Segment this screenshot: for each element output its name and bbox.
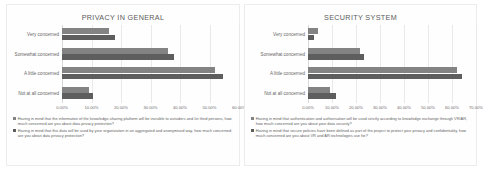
legend-right: Having in mind that authentication and a…: [245, 113, 476, 165]
x-tick-label: 10.00%: [325, 105, 339, 110]
bar-group: [62, 65, 239, 82]
bar-row: Somewhat concerned: [245, 46, 476, 63]
legend-label: Having in mind that the information of t…: [18, 116, 234, 126]
x-tick-label: 20.00%: [349, 105, 363, 110]
category-label: Not at all concerned: [245, 91, 308, 96]
x-tick-label: 40.00%: [397, 105, 411, 110]
category-label: Very concerned: [7, 32, 62, 37]
plot-area-left: Very concernedSomewhat concernedA little…: [7, 25, 239, 103]
bar-segment: [308, 35, 314, 41]
category-label: Somewhat concerned: [245, 52, 308, 57]
bar-rows-right: Very concernedSomewhat concernedA little…: [245, 25, 476, 103]
legend-label: Having in mind that secure policies have…: [256, 128, 471, 138]
bar-group: [62, 85, 239, 102]
bar-row: Somewhat concerned: [7, 46, 239, 63]
bar-segment: [62, 74, 223, 80]
bar-segment: [308, 48, 360, 54]
x-tick-label: 0.00%: [302, 105, 314, 110]
chart-panel-privacy-in-general: PRIVACY IN GENERAL Very concernedSomewha…: [6, 4, 240, 166]
legend-label: Having in mind that this data will be us…: [18, 128, 234, 138]
x-tick-label: 30.00%: [373, 105, 387, 110]
bar-segment: [62, 54, 174, 60]
bar-rows-left: Very concernedSomewhat concernedA little…: [7, 25, 239, 103]
chart-panel-security-system: SECURITY SYSTEM Very concernedSomewhat c…: [244, 4, 477, 166]
x-tick-label: 50.00%: [421, 105, 435, 110]
chart-title-left: PRIVACY IN GENERAL: [7, 5, 239, 24]
gridline: [239, 25, 240, 103]
bar-group: [308, 26, 476, 43]
legend-label: Having in mind that authentication and a…: [256, 116, 471, 126]
bar-segment: [308, 54, 364, 60]
bar-segment: [62, 48, 168, 54]
charts-page: PRIVACY IN GENERAL Very concernedSomewha…: [0, 0, 483, 172]
x-tick-label: 40.00%: [173, 105, 187, 110]
bar-group: [62, 26, 239, 43]
legend-item: Having in mind that secure policies have…: [251, 128, 471, 138]
x-tick-label: 0.00%: [56, 105, 68, 110]
x-tick-label: 10.00%: [85, 105, 99, 110]
bar-segment: [308, 87, 330, 93]
x-axis-left: 0.00%10.00%20.00%30.00%40.00%50.00%60.00…: [62, 104, 239, 113]
legend-swatch-icon: [251, 129, 254, 132]
bar-segment: [308, 93, 336, 99]
bar-group: [308, 65, 476, 82]
category-label: Not at all concerned: [7, 91, 62, 96]
x-tick-label: 50.00%: [203, 105, 217, 110]
bar-segment: [62, 93, 93, 99]
bar-row: Not at all concerned: [7, 85, 239, 102]
x-tick-label: 20.00%: [114, 105, 128, 110]
x-axis-right: 0.00%10.00%20.00%30.00%40.00%50.00%60.00…: [308, 104, 476, 113]
legend-item: Having in mind that authentication and a…: [251, 116, 471, 126]
legend-item: Having in mind that the information of t…: [13, 116, 234, 126]
legend-swatch-icon: [13, 129, 16, 132]
category-label: Very concerned: [245, 32, 308, 37]
bar-group: [62, 46, 239, 63]
legend-left: Having in mind that the information of t…: [7, 113, 239, 165]
legend-swatch-icon: [251, 117, 254, 120]
x-tick-label: 70.00%: [469, 105, 483, 110]
category-label: A little concerned: [7, 71, 62, 76]
bar-row: Very concerned: [7, 26, 239, 43]
bar-segment: [62, 87, 89, 93]
bar-group: [308, 85, 476, 102]
bar-segment: [308, 28, 318, 34]
bar-row: A little concerned: [245, 65, 476, 82]
legend-item: Having in mind that this data will be us…: [13, 128, 234, 138]
gridline: [476, 25, 477, 103]
bar-row: Not at all concerned: [245, 85, 476, 102]
chart-title-right: SECURITY SYSTEM: [245, 5, 476, 24]
x-tick-label: 60.00%: [445, 105, 459, 110]
category-label: A little concerned: [245, 71, 308, 76]
category-label: Somewhat concerned: [7, 52, 62, 57]
bar-segment: [62, 67, 215, 73]
bar-row: A little concerned: [7, 65, 239, 82]
bar-segment: [308, 67, 457, 73]
bar-segment: [308, 74, 462, 80]
bar-segment: [62, 35, 115, 41]
legend-swatch-icon: [13, 117, 16, 120]
bar-group: [308, 46, 476, 63]
bar-row: Very concerned: [245, 26, 476, 43]
plot-area-right: Very concernedSomewhat concernedA little…: [245, 25, 476, 103]
bar-segment: [62, 28, 109, 34]
x-tick-label: 30.00%: [144, 105, 158, 110]
